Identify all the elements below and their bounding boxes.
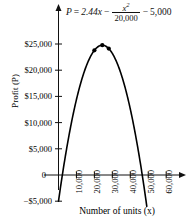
x-tick-label: 50,000 <box>146 170 156 193</box>
y-axis-label: Profit (P) <box>10 56 20 126</box>
chart-figure: P = 2.44x − x2 20,000 − 5,000 −$5,0000$5… <box>0 0 195 222</box>
x-tick-label: 10,000 <box>74 170 84 193</box>
x-tick-label: 20,000 <box>92 170 102 193</box>
x-axis-label: Number of units (x) <box>44 206 190 216</box>
x-tick-label: 40,000 <box>128 170 138 193</box>
x-tick-label: 60,000 <box>164 170 174 193</box>
x-axis-tick-labels: 10,00020,00030,00040,00050,00060,000 <box>0 0 195 222</box>
x-tick-label: 30,000 <box>110 170 120 193</box>
